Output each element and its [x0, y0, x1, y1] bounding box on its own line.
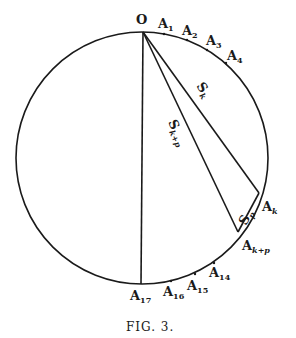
figure-3: O A1 A2 A3 A4 Ak Ak+p A14 A15 A16 A17 Sk… — [0, 0, 296, 338]
label-A17: A17 — [129, 288, 151, 305]
arc-point-ticks — [163, 33, 227, 282]
chord-O-A17 — [141, 32, 143, 284]
label-A3: A3 — [205, 33, 222, 50]
label-A4: A4 — [226, 48, 243, 65]
label-A14: A14 — [208, 265, 231, 282]
label-A2: A2 — [181, 23, 198, 40]
label-A15: A15 — [186, 278, 208, 295]
label-A1: A1 — [157, 16, 174, 33]
label-Sp: Sp — [235, 207, 257, 229]
label-Akp: Ak+p — [241, 238, 270, 255]
label-Ak: Ak — [261, 199, 278, 216]
circle-diagram: O A1 A2 A3 A4 Ak Ak+p A14 A15 A16 A17 Sk… — [0, 0, 296, 338]
label-Sk: Sk — [192, 79, 215, 101]
label-O: O — [136, 12, 147, 27]
figure-caption: FIG. 3. — [126, 320, 174, 334]
label-A16: A16 — [162, 284, 185, 301]
